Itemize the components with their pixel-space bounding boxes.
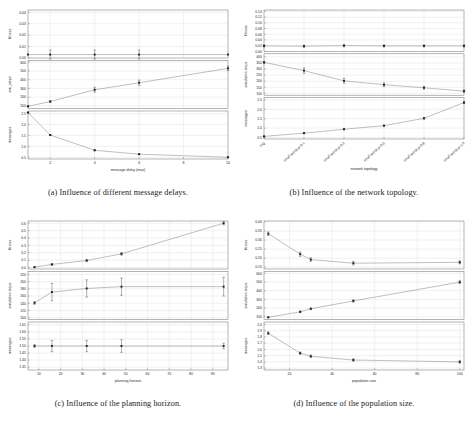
data-point-marker	[267, 332, 269, 334]
data-point-marker	[49, 101, 51, 103]
chart-svg-panel-c: 0.00.10.20.30.40.50.6fitness100120140160…	[0, 215, 236, 390]
svg-text:1.65: 1.65	[19, 323, 26, 327]
svg-text:0.5: 0.5	[21, 156, 26, 160]
x-tick-label: 80	[189, 372, 193, 376]
x-tick-label: 90	[211, 372, 215, 376]
data-point-marker	[34, 302, 36, 304]
svg-text:200: 200	[256, 306, 262, 310]
data-point-marker	[343, 128, 345, 130]
x-tick-label: 60	[146, 372, 150, 376]
x-tick-label: 40	[102, 372, 106, 376]
svg-text:220: 220	[20, 273, 26, 277]
svg-text:1.40: 1.40	[19, 358, 26, 362]
data-point-marker	[138, 153, 140, 155]
data-point-marker	[94, 89, 96, 91]
data-point-marker	[121, 345, 123, 347]
svg-text:0.04: 0.04	[255, 38, 262, 42]
panel-caption-b: (b) Influence of the network topology.	[236, 188, 472, 197]
data-point-marker	[263, 45, 265, 47]
svg-text:0.01: 0.01	[19, 45, 26, 49]
x-tick-label: 4	[94, 161, 96, 165]
x-axis-label: message delay (max)	[111, 168, 145, 172]
svg-text:1.6: 1.6	[257, 348, 262, 352]
subplot-b-0: 0.000.020.040.060.080.100.120.14fitness	[244, 10, 465, 54]
svg-text:100: 100	[256, 315, 262, 319]
svg-text:120: 120	[20, 309, 26, 313]
svg-text:0.20: 0.20	[255, 256, 262, 260]
svg-text:200: 200	[256, 79, 262, 83]
svg-text:0.1: 0.1	[21, 258, 26, 262]
svg-text:100: 100	[20, 104, 26, 108]
svg-text:0.4: 0.4	[21, 236, 26, 240]
data-point-marker	[299, 253, 301, 255]
svg-text:1.4: 1.4	[257, 360, 262, 364]
data-point-marker	[223, 286, 225, 288]
data-point-marker	[310, 355, 312, 357]
svg-text:1.55: 1.55	[19, 337, 26, 341]
x-tick-label: 50	[124, 372, 128, 376]
y-axis-label: messages	[8, 127, 12, 144]
plot-area-d: 0.150.200.250.300.350.40fitness100200300…	[236, 215, 472, 390]
data-point-marker	[223, 345, 225, 347]
data-point-marker	[223, 222, 225, 224]
data-point-marker	[343, 45, 345, 47]
data-point-marker	[463, 90, 465, 92]
data-point-marker	[27, 54, 29, 56]
data-point-marker	[310, 308, 312, 310]
svg-text:100: 100	[256, 92, 262, 96]
subplot-d-0: 0.150.200.250.300.350.40fitness	[244, 220, 464, 269]
y-axis-label: fitness	[8, 240, 12, 251]
svg-text:400: 400	[256, 289, 262, 293]
svg-text:0.5: 0.5	[257, 136, 262, 140]
svg-text:0.5: 0.5	[21, 229, 26, 233]
subplot-d-1: 100200300400500600simulation steps	[244, 272, 464, 320]
data-point-marker	[352, 262, 354, 264]
svg-text:0.12: 0.12	[255, 15, 262, 19]
svg-text:1.5: 1.5	[257, 117, 262, 121]
y-axis-label: messages	[244, 338, 248, 355]
data-point-marker	[86, 260, 88, 262]
x-tick-label: 60	[373, 372, 377, 376]
svg-text:500: 500	[20, 69, 26, 73]
data-point-marker	[423, 45, 425, 47]
x-tick-label: 30	[80, 372, 84, 376]
data-point-marker	[423, 87, 425, 89]
svg-text:300: 300	[20, 87, 26, 91]
svg-text:0.25: 0.25	[255, 247, 262, 251]
subplot-c-1: 100120140160180200220simulation steps	[8, 272, 228, 320]
data-point-marker	[352, 359, 354, 361]
data-point-marker	[51, 263, 53, 265]
x-tick-label: 40	[330, 372, 334, 376]
x-tick-label: 70	[167, 372, 171, 376]
svg-text:0.35: 0.35	[255, 229, 262, 233]
y-axis-label: messages	[8, 338, 12, 355]
data-point-marker	[459, 281, 461, 283]
svg-text:500: 500	[256, 280, 262, 284]
data-point-marker	[27, 112, 29, 114]
svg-text:0.00: 0.00	[255, 50, 262, 54]
data-point-marker	[263, 135, 265, 137]
data-point-marker	[463, 45, 465, 47]
plot-area-a: 0.000.010.020.030.04fitness1002003004005…	[0, 4, 236, 179]
subplot-b-2: 0.51.01.52.02.5messagesringsmall world p…	[244, 98, 466, 171]
svg-text:2.5: 2.5	[21, 112, 26, 116]
x-tick-label: 80	[415, 372, 419, 376]
data-point-marker	[138, 54, 140, 56]
svg-text:600: 600	[256, 272, 262, 276]
y-axis-label: simulation steps	[244, 61, 248, 87]
data-point-marker	[49, 134, 51, 136]
x-tick-label: small world p=0.5	[363, 141, 386, 162]
data-point-marker	[51, 345, 53, 347]
data-point-marker	[138, 82, 140, 84]
svg-text:180: 180	[20, 287, 26, 291]
x-tick-label: 10	[226, 161, 230, 165]
data-point-marker	[303, 132, 305, 134]
figure-panel-c: 0.00.10.20.30.40.50.6fitness100120140160…	[0, 211, 236, 422]
svg-text:2.5: 2.5	[257, 98, 262, 102]
data-point-marker	[34, 345, 36, 347]
subplot-d-2: 1.31.41.51.61.71.81.92.0messages20406080…	[244, 322, 464, 383]
svg-text:0.03: 0.03	[19, 22, 26, 26]
data-point-marker	[303, 45, 305, 47]
x-tick-label: 20	[288, 372, 292, 376]
svg-text:0.02: 0.02	[255, 44, 262, 48]
